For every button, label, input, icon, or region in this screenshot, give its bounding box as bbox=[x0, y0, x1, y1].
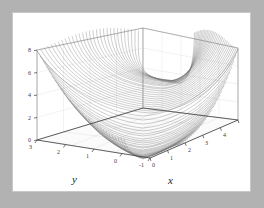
figure-canvas: 8 6 4 2 0 3 2 1 0 -1 -1 0 1 2 3 4 y x bbox=[0, 0, 264, 208]
x-tick-label-0: 0 bbox=[152, 162, 155, 168]
z-axis-ticks bbox=[34, 50, 37, 141]
y-tick-label-3: 3 bbox=[29, 144, 32, 150]
y-axis-title: y bbox=[72, 174, 77, 185]
x-tick-label-2: 2 bbox=[188, 147, 191, 153]
x-axis-title: x bbox=[168, 175, 173, 186]
x-tick-label-1: 1 bbox=[170, 155, 173, 161]
y-tick-label-1: 1 bbox=[86, 153, 89, 159]
y-tick-label-2: 2 bbox=[57, 149, 60, 155]
y-tick-label-0: 0 bbox=[114, 158, 117, 164]
x-tick-label-3: 3 bbox=[205, 140, 208, 146]
x-tick-label-4: 4 bbox=[223, 132, 226, 138]
z-tick-label-6: 6 bbox=[28, 70, 31, 76]
z-tick-label-4: 4 bbox=[28, 92, 31, 98]
surface-plot bbox=[0, 0, 264, 208]
z-tick-label-8: 8 bbox=[28, 47, 31, 53]
z-tick-label-2: 2 bbox=[28, 115, 31, 121]
z-tick-label-0: 0 bbox=[28, 137, 31, 143]
